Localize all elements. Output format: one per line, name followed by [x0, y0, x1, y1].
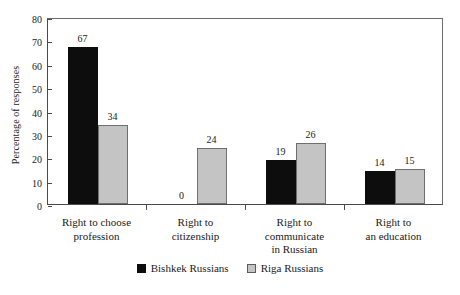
y-tick-mark	[48, 136, 52, 137]
bar	[266, 160, 296, 204]
y-tick-mark	[48, 159, 52, 160]
category-label: Right tocommunicatein Russian	[245, 216, 344, 257]
category-label-line: Right to	[146, 216, 245, 230]
y-tick-label: 40	[32, 107, 42, 118]
legend-label: Riga Russians	[261, 262, 324, 274]
category-label-line: citizenship	[146, 230, 245, 244]
y-tick-label: 10	[32, 177, 42, 188]
y-tick-label: 50	[32, 84, 42, 95]
bar	[68, 47, 98, 204]
category-label-line: Right to	[245, 216, 344, 230]
category-label-line: Right to choose	[47, 216, 146, 230]
category-label-line: in Russian	[245, 243, 344, 257]
x-axis-separator-tick	[344, 205, 345, 210]
legend-label: Bishkek Russians	[151, 262, 229, 274]
y-tick-label: 80	[32, 14, 42, 25]
legend-item: Riga Russians	[247, 262, 324, 274]
bar	[365, 171, 395, 204]
y-tick-mark	[48, 66, 52, 67]
bar-chart-figure: Percentage of responses 0102030405060708…	[0, 0, 460, 295]
x-axis-separator-tick	[245, 205, 246, 210]
y-tick-mark	[48, 42, 52, 43]
category-label-line: communicate	[245, 230, 344, 244]
bar-value-label: 67	[62, 33, 104, 44]
bar-value-label: 24	[191, 134, 233, 145]
category-label-line: an education	[344, 230, 443, 244]
bar-value-label: 34	[92, 111, 134, 122]
bar	[197, 148, 227, 204]
y-tick-mark	[48, 113, 52, 114]
chart-legend: Bishkek RussiansRiga Russians	[0, 262, 460, 274]
legend-swatch-icon	[137, 264, 146, 273]
category-label-line: Right to	[344, 216, 443, 230]
bar	[395, 169, 425, 204]
category-label-line: profession	[47, 230, 146, 244]
y-tick-mark	[48, 19, 52, 20]
y-tick-label: 60	[32, 60, 42, 71]
y-tick-label: 30	[32, 130, 42, 141]
y-tick-label: 0	[37, 201, 42, 212]
bar-value-label: 15	[389, 155, 431, 166]
category-label: Right to chooseprofession	[47, 216, 146, 243]
y-tick-mark	[48, 183, 52, 184]
y-tick-label: 70	[32, 37, 42, 48]
y-axis-title: Percentage of responses	[5, 13, 27, 218]
category-label: Right toan education	[344, 216, 443, 243]
bar-value-label: 26	[290, 129, 332, 140]
y-tick-mark	[48, 89, 52, 90]
legend-item: Bishkek Russians	[137, 262, 229, 274]
category-label: Right tocitizenship	[146, 216, 245, 243]
x-axis-separator-tick	[146, 205, 147, 210]
plot-area: 01020304050607080 673402419261415	[47, 18, 443, 205]
legend-swatch-icon	[247, 264, 256, 273]
bar	[98, 125, 128, 204]
bar	[296, 143, 326, 204]
y-tick-mark	[48, 206, 52, 207]
y-tick-label: 20	[32, 154, 42, 165]
